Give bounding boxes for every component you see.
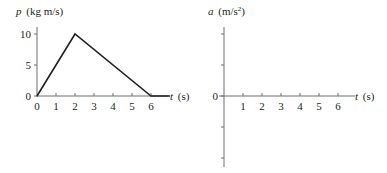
t-axis-label: t (s): [170, 90, 190, 103]
svg-text:4: 4: [297, 100, 303, 112]
momentum-chart: p (kg m/s) 10 5 0 0 1 2 3 4 5 6: [15, 5, 190, 112]
a-tick-label-0: 0: [213, 90, 219, 102]
p-axis-label: p (kg m/s): [15, 5, 64, 18]
a-axis-label: a (m/s2): [208, 5, 245, 18]
svg-text:6: 6: [148, 100, 154, 112]
svg-text:2: 2: [259, 100, 265, 112]
svg-text:1: 1: [240, 100, 246, 112]
momentum-line: [37, 34, 170, 96]
p-tick-label-5: 5: [26, 59, 32, 71]
acceleration-chart: a (m/s2) 0 1 2 3 4 5 6: [208, 5, 375, 167]
svg-text:5: 5: [316, 100, 322, 112]
figure: p (kg m/s) 10 5 0 0 1 2 3 4 5 6: [0, 0, 387, 173]
svg-text:6: 6: [335, 100, 341, 112]
svg-text:2: 2: [72, 100, 78, 112]
svg-text:0: 0: [34, 100, 40, 112]
svg-text:1: 1: [53, 100, 59, 112]
p-tick-label-0: 0: [26, 90, 32, 102]
t-tick-labels: 0 1 2 3 4 5 6: [34, 100, 154, 112]
p-tick-label-10: 10: [20, 28, 32, 40]
svg-text:3: 3: [91, 100, 97, 112]
t-tick-labels-right: 1 2 3 4 5 6: [240, 100, 341, 112]
svg-text:4: 4: [110, 100, 116, 112]
t-axis-label-right: t (s): [355, 90, 375, 103]
svg-text:5: 5: [129, 100, 135, 112]
svg-text:3: 3: [278, 100, 284, 112]
